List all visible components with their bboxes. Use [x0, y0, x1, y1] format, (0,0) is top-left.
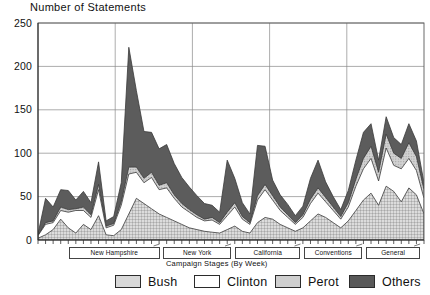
plot-area: [0, 0, 430, 250]
stage-label-new-york[interactable]: New York: [163, 247, 231, 259]
stage-label-conventions[interactable]: Conventions: [304, 247, 362, 259]
x-axis-label: Campaign Stages (By Week): [166, 259, 268, 268]
legend-item-perot[interactable]: Perot: [275, 274, 339, 289]
legend-label-perot: Perot: [308, 275, 339, 289]
statements-area-chart: Number of Statements 250 200 150 100 50 …: [0, 0, 430, 295]
legend-item-bush[interactable]: Bush: [115, 274, 177, 289]
x-axis-ticks: [38, 240, 424, 244]
stage-leader-0: [154, 244, 160, 246]
clinton-swatch: [194, 275, 220, 288]
legend-label-bush: Bush: [148, 275, 177, 289]
stage-label-california[interactable]: California: [235, 247, 301, 259]
others-swatch: [349, 275, 375, 288]
stage-bracket-leaders: [154, 244, 421, 246]
stage-leader-2: [294, 244, 300, 246]
perot-swatch: [275, 275, 301, 288]
legend-item-others[interactable]: Others: [349, 274, 421, 289]
stage-label-new-hampshire[interactable]: New Hampshire: [69, 247, 160, 259]
legend-label-others: Others: [382, 275, 421, 289]
stage-leader-4: [414, 244, 420, 246]
legend-label-clinton: Clinton: [227, 275, 267, 289]
stage-leader-3: [356, 244, 362, 246]
stage-leader-1: [225, 244, 231, 246]
bush-swatch: [115, 275, 141, 288]
legend-item-clinton[interactable]: Clinton: [194, 274, 267, 289]
stage-label-general[interactable]: General: [366, 247, 420, 259]
